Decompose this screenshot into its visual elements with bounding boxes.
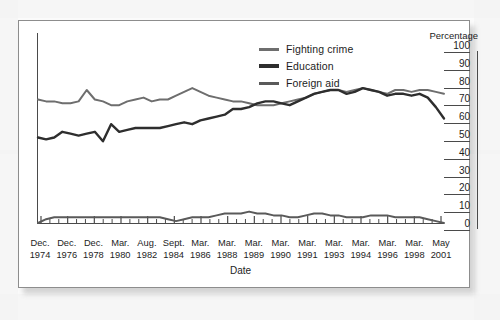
- y-axis-tick-label: 100: [444, 41, 470, 53]
- y-axis-tick-label: 30: [444, 166, 470, 178]
- plot-svg: [38, 33, 444, 223]
- x-tick-month: Mar.: [110, 238, 131, 250]
- x-axis-title: Date: [37, 265, 444, 276]
- series-line-fighting-crime: [38, 88, 444, 105]
- x-axis-tick-label: Dec.1974: [30, 238, 51, 261]
- x-axis-tick-label: May2001: [431, 238, 452, 261]
- y-axis-tick-label: 10: [444, 201, 470, 213]
- x-tick-year: 1976: [56, 250, 77, 262]
- page-background-left: [0, 0, 18, 320]
- x-tick-month: Dec.: [83, 238, 104, 250]
- x-tick-year: 1996: [377, 250, 398, 262]
- x-tick-month: Mar.: [377, 238, 398, 250]
- x-axis-tick-label: Mar.1996: [377, 238, 398, 261]
- x-tick-month: Mar.: [244, 238, 265, 250]
- y-axis-tick-label: 80: [444, 77, 470, 89]
- x-axis-tick-label: Mar.1993: [324, 238, 345, 261]
- x-axis-tick-label: Mar.1994: [350, 238, 371, 261]
- x-tick-year: 1994: [350, 250, 371, 262]
- series-lines: [38, 88, 444, 223]
- plot-area: [37, 33, 444, 224]
- x-tick-year: 1990: [270, 250, 291, 262]
- series-line-education: [38, 88, 444, 141]
- x-tick-month: Dec.: [56, 238, 77, 250]
- x-tick-month: Mar.: [404, 238, 425, 250]
- y-axis-tick-label: 60: [444, 112, 470, 124]
- x-tick-month: Dec.: [30, 238, 51, 250]
- x-axis-tick-label: Sept.1984: [163, 238, 185, 261]
- x-axis-tick-label: Mar.1998: [404, 238, 425, 261]
- chart-card: Fighting crime Education Foreign aid Per…: [18, 20, 470, 288]
- chart-screenshot: Fighting crime Education Foreign aid Per…: [0, 0, 500, 320]
- x-axis: Dec.1974Dec.1976Dec.1978Mar.1980Aug.1982…: [37, 234, 447, 268]
- x-tick-year: 1978: [83, 250, 104, 262]
- x-axis-tick-label: Aug.1982: [137, 238, 158, 261]
- x-tick-month: Sept.: [163, 238, 185, 250]
- y-axis-tick-label: 90: [444, 59, 470, 71]
- x-tick-year: 1982: [137, 250, 158, 262]
- x-axis-tick-label: Mar.1986: [190, 238, 211, 261]
- x-tick-month: Mar.: [350, 238, 371, 250]
- x-tick-month: May: [431, 238, 452, 250]
- x-axis-tick-label: Mar.1988: [217, 238, 238, 261]
- y-axis-tick-label: 20: [444, 183, 470, 195]
- x-tick-year: 1993: [324, 250, 345, 262]
- x-tick-year: 1980: [110, 250, 131, 262]
- x-tick-month: Mar.: [190, 238, 211, 250]
- x-axis-tick-label: Mar.1991: [297, 238, 318, 261]
- x-tick-month: Mar.: [217, 238, 238, 250]
- x-tick-year: 1984: [163, 250, 185, 262]
- x-tick-month: Mar.: [297, 238, 318, 250]
- x-axis-tick-label: Dec.1978: [83, 238, 104, 261]
- y-axis-tick-label: 70: [444, 94, 470, 106]
- x-tick-year: 1974: [30, 250, 51, 262]
- x-tick-year: 1988: [217, 250, 238, 262]
- x-tick-year: 1991: [297, 250, 318, 262]
- x-tick-year: 1989: [244, 250, 265, 262]
- x-tick-month: Mar.: [324, 238, 345, 250]
- x-axis-tick-label: Mar.1990: [270, 238, 291, 261]
- y-axis-tick-label: 0: [444, 219, 470, 231]
- page-background-band-top: [0, 0, 500, 18]
- x-tick-month: Aug.: [137, 238, 158, 250]
- x-tick-year: 1986: [190, 250, 211, 262]
- x-axis-tick-label: Mar.1980: [110, 238, 131, 261]
- x-tick-month: Mar.: [270, 238, 291, 250]
- x-axis-tick-label: Dec.1976: [56, 238, 77, 261]
- x-tick-year: 1998: [404, 250, 425, 262]
- x-tick-year: 2001: [431, 250, 452, 262]
- y-axis: Percentage 1009080706050403020100: [444, 29, 480, 42]
- y-axis-rail: [477, 51, 478, 229]
- x-axis-tick-label: Mar.1989: [244, 238, 265, 261]
- series-line-foreign-aid: [38, 212, 444, 223]
- y-axis-tick-label: 50: [444, 130, 470, 142]
- y-axis-tick-label: 40: [444, 148, 470, 160]
- page-background-band-bottom: [0, 294, 500, 320]
